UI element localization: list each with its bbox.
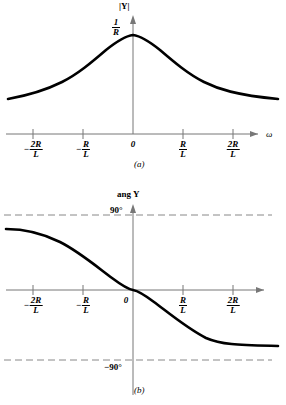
panel-b-xtick-label-zero: 0 — [124, 296, 129, 305]
minus-sign: − — [24, 145, 29, 154]
panel-a-caption: (a) — [134, 160, 145, 169]
panel-a-y-axis-label: |Y| — [119, 2, 129, 11]
panel-a-x-arrowhead — [250, 131, 258, 137]
minus-sign: − — [76, 301, 81, 310]
fraction-denominator: L — [227, 306, 240, 315]
fraction-R-over-L: RL — [82, 140, 90, 160]
panel-b-x-arrowhead — [256, 287, 264, 293]
panel-a-xtick-label--RL: −RL — [76, 140, 90, 160]
fraction-denominator: L — [179, 150, 187, 159]
panel-b-xtick-label-RL: RL — [179, 296, 187, 316]
panel-b-lower-asymptote-label: −90° — [104, 363, 122, 372]
panel-b-upper-asymptote-label: 90° — [110, 206, 123, 215]
fraction-R-over-L: RL — [179, 296, 187, 316]
fraction-2R-over-L: 2RL — [227, 296, 240, 316]
panel-a-y-arrowhead — [130, 15, 136, 24]
fraction-denominator: L — [30, 150, 43, 159]
panel-a-xtick-label-RL: RL — [179, 140, 187, 160]
panel-a-xtick-label-2RL: 2RL — [227, 140, 240, 160]
fraction-denominator: L — [227, 150, 240, 159]
fraction-one-over-R: 1 R — [112, 18, 120, 38]
fraction-denominator: L — [82, 306, 90, 315]
panel-b-plot — [0, 190, 286, 405]
figure-container: |Y| 1 R −2RL −RL 0 RL 2RL ω (a) — [0, 0, 286, 405]
panel-a-x-axis-label: ω — [266, 130, 272, 139]
panel-b-angle-curve — [6, 229, 278, 346]
panel-b-y-axis-label: ang Y — [117, 190, 139, 199]
panel-a-magnitude-curve — [8, 35, 278, 99]
minus-sign: − — [76, 145, 81, 154]
panel-a-xtick-label-zero: 0 — [131, 140, 136, 149]
fraction-denominator: R — [112, 28, 120, 37]
panel-b-xtick-label-2RL: 2RL — [227, 296, 240, 316]
fraction-denominator: L — [82, 150, 90, 159]
fraction-R-over-L: RL — [179, 140, 187, 160]
minus-sign: − — [24, 301, 29, 310]
fraction-2R-over-L: 2RL — [30, 296, 43, 316]
fraction-2R-over-L: 2RL — [227, 140, 240, 160]
panel-a-xtick-label--2RL: −2RL — [24, 140, 43, 160]
panel-b-xtick-label--2RL: −2RL — [24, 296, 43, 316]
fraction-2R-over-L: 2RL — [30, 140, 43, 160]
panel-b-caption: (b) — [134, 386, 145, 395]
panel-a-plot — [0, 0, 286, 180]
panel-a-peak-value-label: 1 R — [112, 18, 120, 38]
fraction-R-over-L: RL — [82, 296, 90, 316]
fraction-denominator: L — [30, 306, 43, 315]
panel-b-y-arrowhead — [130, 204, 136, 213]
fraction-denominator: L — [179, 306, 187, 315]
panel-b-xtick-label--RL: −RL — [76, 296, 90, 316]
